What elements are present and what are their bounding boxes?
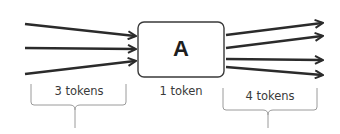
node-caption: 1 token	[159, 84, 202, 98]
input-caption: 3 tokens	[54, 84, 103, 98]
node-label: A	[173, 36, 189, 62]
input-arrow-3	[25, 61, 135, 74]
input-arrows	[25, 24, 135, 74]
output-arrow-3	[226, 59, 322, 60]
input-arrow-2	[25, 48, 135, 49]
output-caption: 4 tokens	[245, 89, 294, 103]
token-diagram	[0, 0, 340, 134]
output-arrow-2	[226, 36, 322, 48]
output-arrow-1	[226, 23, 322, 35]
output-arrow-4	[226, 67, 322, 75]
input-arrow-1	[25, 24, 135, 36]
output-arrows	[226, 23, 322, 75]
